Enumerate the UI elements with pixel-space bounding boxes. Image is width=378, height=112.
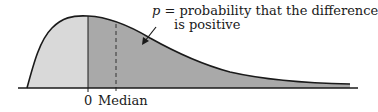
probability-annotation: p = probability that the difference is p…: [152, 4, 378, 32]
median-tick-label: Median: [98, 94, 148, 108]
annotation-line1: = probability that the difference: [160, 3, 378, 18]
annotation-line2: is positive: [152, 18, 378, 32]
negative-region-fill: [27, 16, 88, 88]
zero-tick-label: 0: [84, 94, 92, 108]
